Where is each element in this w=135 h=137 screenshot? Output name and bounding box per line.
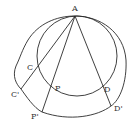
label-c: C [27, 63, 33, 72]
label-p-prime: P' [31, 112, 39, 121]
label-p: P [55, 84, 61, 93]
label-a: A [71, 4, 78, 13]
label-d: D [104, 85, 110, 94]
ray-a-p-prime [42, 16, 75, 112]
label-d-prime: D' [114, 104, 123, 113]
diagram-canvas: A C C' P P' D D' [0, 0, 135, 137]
ray-a-c-prime [21, 16, 75, 89]
inner-circle [37, 16, 117, 96]
label-c-prime: C' [11, 90, 19, 99]
